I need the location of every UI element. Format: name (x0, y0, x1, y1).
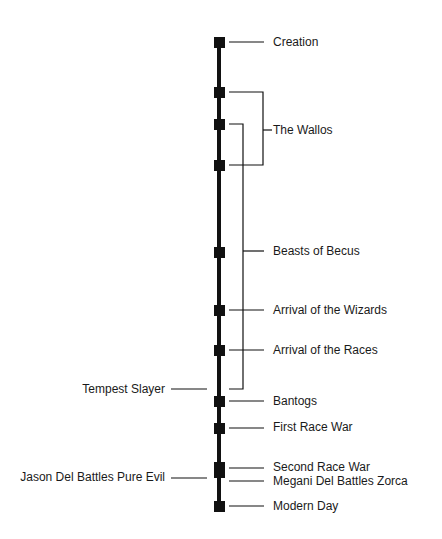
marker-modern-day (214, 501, 225, 512)
marker-bantogs (214, 396, 225, 407)
event-label-megani-del: Megani Del Battles Zorca (273, 474, 408, 488)
marker-becus-start (214, 119, 225, 130)
marker-wizards (214, 305, 225, 316)
timeline-graphic (0, 0, 442, 539)
event-label-first-race-war: First Race War (273, 420, 353, 434)
event-label-arrival-wizards: Arrival of the Wizards (273, 303, 387, 317)
event-label-arrival-races: Arrival of the Races (273, 343, 378, 357)
event-label-bantogs: Bantogs (273, 394, 317, 408)
marker-wallos-start (214, 87, 225, 98)
event-label-tempest-slayer: Tempest Slayer (82, 382, 165, 396)
marker-becus (214, 247, 225, 258)
marker-first-race-war (214, 423, 225, 434)
bracket-wallos (229, 92, 263, 165)
marker-second-race-war (214, 462, 225, 478)
marker-races (214, 345, 225, 356)
event-label-jason-del: Jason Del Battles Pure Evil (20, 470, 165, 484)
event-label-beasts-of-becus: Beasts of Becus (273, 244, 360, 258)
event-label-second-race-war: Second Race War (273, 460, 370, 474)
marker-wallos-end (214, 160, 225, 171)
event-label-modern-day: Modern Day (273, 499, 338, 513)
event-label-creation: Creation (273, 35, 318, 49)
bracket-becus (229, 124, 243, 389)
event-label-the-wallos: The Wallos (273, 123, 333, 137)
marker-creation (214, 37, 225, 48)
